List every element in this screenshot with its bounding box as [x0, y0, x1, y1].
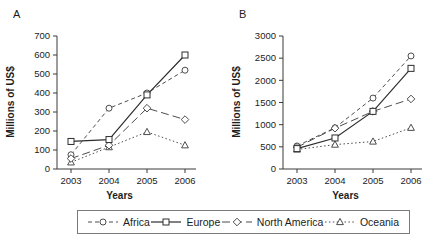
chart-panel-a: A01002003004005006007002003200420052006Y… — [0, 0, 221, 206]
series-line-north-america — [297, 99, 411, 147]
legend-item-oceania: Oceania — [325, 216, 399, 228]
marker-africa — [182, 67, 188, 73]
y-tick-label: 2500 — [255, 52, 276, 63]
marker-europe — [332, 135, 338, 141]
y-tick-label: 300 — [34, 106, 50, 117]
y-tick-label: 0 — [271, 163, 276, 174]
marker-africa — [106, 105, 112, 111]
marker-europe — [408, 65, 414, 71]
x-tick-label: 2003 — [60, 175, 81, 186]
marker-north-america — [407, 95, 415, 103]
panel-label: B — [239, 8, 246, 20]
oceania-line-swatch — [325, 216, 355, 228]
legend-item-label: Africa — [123, 216, 150, 228]
series-line-europe — [71, 55, 185, 141]
legend-item-africa: Africa — [88, 216, 150, 228]
x-tick-label: 2003 — [286, 175, 307, 186]
series-line-north-america — [71, 108, 185, 158]
marker-oceania — [332, 141, 339, 147]
x-tick-label: 2004 — [324, 175, 345, 186]
panel-label: A — [13, 8, 21, 20]
africa-line-swatch — [88, 216, 118, 228]
marker-europe — [370, 108, 376, 114]
marker-europe — [294, 146, 300, 152]
marker-europe — [144, 92, 150, 98]
series-line-africa — [71, 70, 185, 155]
diamond-marker-icon — [233, 218, 241, 226]
y-tick-label: 200 — [34, 125, 50, 136]
marker-africa — [408, 53, 414, 59]
y-tick-label: 0 — [45, 163, 50, 174]
y-axis-title: Millions of US$ — [231, 66, 242, 138]
chart-legend: AfricaEuropeNorth AmericaOceania — [77, 210, 410, 234]
x-axis-title: Years — [106, 190, 133, 201]
square-marker-icon — [163, 219, 169, 225]
y-tick-label: 100 — [34, 144, 50, 155]
y-tick-label: 3000 — [255, 30, 276, 41]
x-tick-label: 2004 — [98, 175, 119, 186]
legend-item-label: Europe — [186, 216, 220, 228]
y-tick-label: 500 — [34, 68, 50, 79]
series-line-africa — [297, 56, 411, 146]
marker-oceania — [408, 124, 415, 130]
y-tick-label: 700 — [34, 30, 50, 41]
legend-item-north-america: North America — [222, 216, 324, 228]
legend-item-label: North America — [257, 216, 324, 228]
marker-europe — [106, 137, 112, 143]
series-line-europe — [297, 68, 411, 148]
y-tick-label: 1000 — [255, 119, 276, 130]
x-axis-title: Years — [332, 190, 359, 201]
y-tick-label: 1500 — [255, 97, 276, 108]
legend-item-label: Oceania — [360, 216, 399, 228]
x-tick-label: 2006 — [400, 175, 421, 186]
circle-marker-icon — [100, 219, 106, 225]
y-tick-label: 400 — [34, 87, 50, 98]
europe-line-swatch — [151, 216, 181, 228]
marker-europe — [182, 52, 188, 58]
y-axis-title: Millions of US$ — [5, 66, 16, 138]
x-tick-label: 2005 — [362, 175, 383, 186]
y-tick-label: 2000 — [255, 75, 276, 86]
x-tick-label: 2005 — [136, 175, 157, 186]
x-tick-label: 2006 — [174, 175, 195, 186]
chart-panel-b: B050010001500200025003000200320042005200… — [226, 0, 447, 206]
marker-oceania — [182, 142, 189, 148]
north-america-line-swatch — [222, 216, 252, 228]
series-line-oceania — [71, 132, 185, 162]
marker-africa — [370, 95, 376, 101]
marker-oceania — [144, 128, 151, 134]
regional-funding-figure: A01002003004005006007002003200420052006Y… — [0, 0, 447, 248]
marker-europe — [68, 138, 74, 144]
y-tick-label: 600 — [34, 49, 50, 60]
y-tick-label: 500 — [260, 141, 276, 152]
marker-north-america — [181, 116, 189, 124]
legend-item-europe: Europe — [151, 216, 220, 228]
